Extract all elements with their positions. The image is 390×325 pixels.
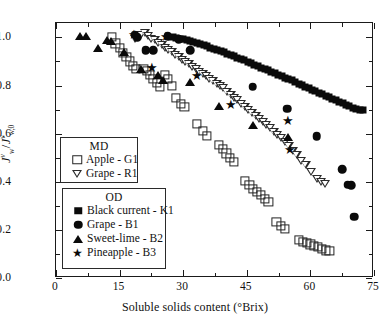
x-tick-label: 0 — [35, 280, 75, 292]
axis-tick — [342, 23, 343, 27]
filled-triangle-up-icon — [69, 232, 87, 245]
x-tick-label: 45 — [226, 280, 266, 292]
axis-tick — [56, 270, 57, 276]
axis-tick — [369, 206, 373, 207]
axis-tick — [56, 61, 60, 62]
axis-tick — [56, 134, 62, 135]
axis-tick — [56, 23, 57, 29]
legend-od-item-grape: Grape - B1 — [63, 217, 165, 231]
y-tick-label: 1.0 — [0, 30, 11, 42]
axis-tick — [366, 230, 372, 231]
data-point: ★ — [284, 144, 296, 157]
axis-tick — [366, 37, 372, 38]
legend-od-item-pineapple: ★ Pineapple - B3 — [63, 245, 165, 259]
x-tick-label: 15 — [99, 280, 139, 292]
legend-od-title: OD — [63, 189, 165, 203]
legend-md-item-grape: Grape - R1 — [61, 166, 137, 180]
x-axis-title-text: Soluble solids content (°Brix) — [122, 300, 268, 314]
legend-od-item-blackcurrent: Black current - K1 — [63, 203, 165, 217]
axis-tick — [247, 23, 248, 29]
data-point: ★ — [191, 70, 203, 83]
axis-tick — [183, 23, 184, 29]
y-tick-label: 0.0 — [0, 271, 11, 283]
figure: Jvw/Jvw,0 ★★★★★★★ Soluble solids content… — [0, 0, 390, 325]
axis-tick — [56, 254, 60, 255]
legend-od-label-sweetlime: Sweet-lime - B2 — [87, 232, 163, 244]
axis-tick — [369, 110, 373, 111]
axis-tick — [374, 270, 375, 276]
filled-star-icon: ★ — [69, 246, 87, 259]
legend-md-item-apple: Apple - G1 — [61, 152, 137, 166]
axis-tick — [56, 37, 62, 38]
axis-tick — [183, 270, 184, 276]
legend-od-item-sweetlime: Sweet-lime - B2 — [63, 231, 165, 245]
filled-square-icon — [69, 204, 87, 217]
axis-tick — [310, 270, 311, 276]
axis-tick — [366, 86, 372, 87]
y-tick-label: 0.2 — [0, 223, 11, 235]
axis-tick — [310, 23, 311, 29]
open-square-icon — [68, 153, 86, 166]
x-tick-label: 75 — [353, 280, 390, 292]
legend-od-label-grape: Grape - B1 — [87, 218, 139, 230]
axis-tick — [151, 23, 152, 27]
axis-tick — [369, 61, 373, 62]
axis-tick — [56, 110, 60, 111]
legend-od-label-blackcurrent: Black current - K1 — [87, 204, 174, 216]
data-point: ★ — [146, 62, 158, 75]
legend-md-title: MD — [61, 138, 137, 152]
legend-md-label-grape: Grape - R1 — [86, 167, 138, 179]
legend-md: MD Apple - G1 Grape - R1 — [60, 137, 138, 183]
axis-tick — [366, 134, 372, 135]
axis-tick — [56, 158, 60, 159]
axis-tick — [279, 23, 280, 27]
legend-od-label-pineapple: Pineapple - B3 — [87, 246, 156, 258]
axis-tick — [247, 270, 248, 276]
axis-tick — [56, 206, 60, 207]
axis-tick — [120, 23, 121, 29]
axis-tick — [366, 278, 372, 279]
legend-od: OD Black current - K1 Grape - B1 Sweet-l… — [62, 188, 166, 269]
filled-circle-icon — [69, 218, 87, 231]
axis-tick — [120, 270, 121, 276]
axis-tick — [56, 86, 62, 87]
data-point: ★ — [160, 31, 172, 44]
axis-tick — [151, 273, 152, 277]
data-point: ★ — [225, 99, 237, 112]
x-axis-title: Soluble solids content (°Brix) — [0, 300, 390, 315]
y-tick-label: 0.6 — [0, 127, 11, 139]
x-tick-label: 30 — [162, 280, 202, 292]
axis-tick — [366, 182, 372, 183]
data-point: ★ — [128, 29, 140, 42]
axis-tick — [215, 273, 216, 277]
axis-tick — [374, 23, 375, 29]
axis-tick — [369, 254, 373, 255]
y-axis-title: Jvw/Jvw,0 — [0, 43, 16, 163]
y-tick-label: 0.4 — [0, 175, 11, 187]
open-triangle-down-icon — [68, 167, 86, 180]
axis-tick — [279, 273, 280, 277]
axis-tick — [88, 273, 89, 277]
axis-tick — [215, 23, 216, 27]
axis-tick — [342, 273, 343, 277]
axis-tick — [88, 23, 89, 27]
data-point: ★ — [282, 115, 294, 128]
axis-tick — [369, 158, 373, 159]
axis-tick — [56, 278, 62, 279]
legend-md-label-apple: Apple - G1 — [86, 153, 138, 165]
x-tick-label: 60 — [289, 280, 329, 292]
y-tick-label: 0.8 — [0, 79, 11, 91]
